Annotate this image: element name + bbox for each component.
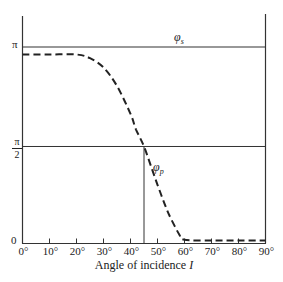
y-tick-label-half-pi: π 2	[11, 137, 23, 160]
x-tick-label: 60°	[178, 245, 193, 257]
x-axis-title-text: Angle of incidence	[95, 258, 189, 272]
x-tick-label: 50°	[151, 245, 166, 257]
x-axis-title: Angle of incidence I	[95, 258, 193, 273]
plot-area	[0, 0, 283, 282]
x-tick-label: 10°	[43, 245, 58, 257]
x-tick-label: 30°	[97, 245, 112, 257]
phase-shift-chart: 0°10°20°30°40°50°60°70°80°90° 0 π π 2 φs…	[0, 0, 283, 282]
phi-p-subscript: p	[160, 167, 164, 176]
phi-s-symbol: φ	[174, 30, 181, 44]
reference-lines	[23, 146, 266, 243]
x-tick-label: 20°	[70, 245, 85, 257]
fraction-denominator: 2	[15, 149, 20, 160]
y-tick-label-pi: π	[12, 38, 18, 50]
y-tick-label-zero: 0	[11, 234, 17, 246]
x-tick-label: 0°	[19, 245, 29, 257]
phi-s-subscript: s	[181, 37, 184, 46]
x-axis-title-symbol: I	[189, 258, 193, 272]
fraction-numerator: π	[14, 136, 19, 147]
x-tick-label: 40°	[124, 245, 139, 257]
phi-p-label: φp	[153, 160, 164, 176]
phi-s-label: φs	[174, 30, 184, 46]
phi-p-symbol: φ	[153, 160, 160, 174]
x-tick-label: 90°	[259, 245, 274, 257]
x-tick-label: 70°	[205, 245, 220, 257]
x-tick-label: 80°	[232, 245, 247, 257]
